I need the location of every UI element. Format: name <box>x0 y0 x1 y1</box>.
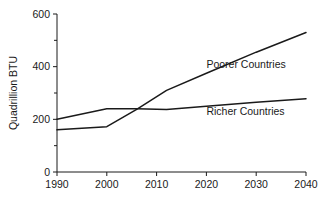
x-axis-tick-label: 2020 <box>195 178 219 190</box>
y-axis-tick-label: 200 <box>32 113 50 125</box>
axis-lines <box>57 14 306 172</box>
series-inline-labels: Poorer CountriesRicher Countries <box>206 58 285 117</box>
x-axis-tick-label: 2040 <box>294 178 318 190</box>
y-axis-tick-label: 400 <box>32 60 50 72</box>
y-axis-tick-labels: 0200400600 <box>32 8 50 178</box>
x-axis-tick-labels: 199020002010202020302040 <box>45 178 318 190</box>
x-axis-tick-label: 2010 <box>145 178 169 190</box>
line-chart: Quadrillion BTU 0200400600 1990200020102… <box>0 0 333 200</box>
x-axis-tick-label: 2000 <box>95 178 119 190</box>
x-axis-tick-label: 1990 <box>45 178 69 190</box>
chart-container: Quadrillion BTU 0200400600 1990200020102… <box>0 0 333 200</box>
y-axis-title: Quadrillion BTU <box>7 56 19 130</box>
x-axis-tick-label: 2030 <box>245 178 269 190</box>
y-axis-title-text: Quadrillion BTU <box>7 56 19 130</box>
series-label-poorer-countries: Poorer Countries <box>206 58 285 70</box>
axis-tick-marks <box>53 14 306 176</box>
y-axis-tick-label: 0 <box>44 166 50 178</box>
series-label-richer-countries: Richer Countries <box>206 105 284 117</box>
y-axis-tick-label: 600 <box>32 8 50 20</box>
